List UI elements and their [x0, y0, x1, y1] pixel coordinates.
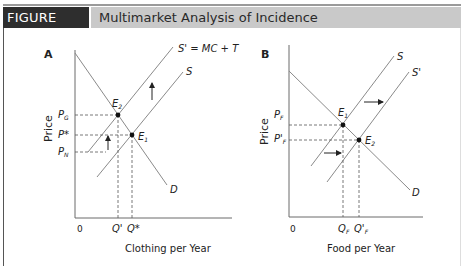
- panel-a-y-label: Price: [42, 115, 55, 142]
- panel-a-demand-curve: [75, 53, 167, 185]
- panel-a-demand-label: D: [170, 184, 178, 195]
- panel-a-e1-label: E1: [138, 131, 148, 143]
- panel-b-supply-curve: [311, 56, 394, 166]
- panel-a-price-pn: PN: [58, 146, 69, 158]
- panel-b-shifted-supply-curve: [327, 72, 409, 182]
- panel-b-price-pf-prime: P'F: [274, 133, 287, 145]
- panel-a-x-label: Clothing per Year: [125, 243, 212, 254]
- panel-b: B S S': [258, 45, 423, 254]
- panel-b-y-label: Price: [258, 118, 271, 145]
- panel-b-e2-label: E2: [365, 135, 375, 147]
- diagram-canvas: A S' = MC: [0, 0, 464, 266]
- panel-b-origin: 0: [290, 224, 296, 234]
- panel-b-price-pf: PF: [274, 109, 284, 121]
- panel-b-demand-label: D: [412, 187, 420, 198]
- panel-a-price-pg: PG: [58, 109, 69, 121]
- panel-b-x-label: Food per Year: [327, 243, 396, 254]
- panel-b-demand-curve: [289, 71, 410, 190]
- panel-b-label: B: [261, 48, 269, 61]
- panel-b-guides: [289, 125, 359, 217]
- panel-a-e1-point: [130, 133, 135, 138]
- panel-a-label: A: [44, 48, 53, 61]
- panel-a-q-prime: Q': [112, 223, 123, 234]
- panel-b-e2-point: [357, 138, 362, 143]
- panel-a-q-star: Q*: [127, 223, 140, 234]
- figure-frame: FIGURE 11.11 Multimarket Analysis of Inc…: [0, 0, 464, 266]
- panel-b-supply-label: S: [397, 51, 404, 62]
- panel-b-qf: QF: [338, 223, 350, 235]
- panel-b-shifted-supply-label: S': [412, 67, 421, 78]
- panel-a-e2-point: [116, 113, 121, 118]
- panel-a-guides: [75, 115, 132, 218]
- panel-a: A S' = MC: [42, 43, 239, 254]
- panel-a-supply-label: S: [186, 66, 193, 77]
- panel-a-e2-label: E2: [112, 98, 122, 110]
- panel-a-price-pstar: P*: [58, 129, 69, 140]
- panel-a-origin: 0: [77, 224, 83, 234]
- panel-b-e1-label: E1: [338, 107, 348, 119]
- panel-b-e1-point: [341, 123, 346, 128]
- panel-b-qf-prime: Q'F: [354, 223, 369, 235]
- panel-a-shifted-supply-label: S' = MC + T: [178, 43, 239, 54]
